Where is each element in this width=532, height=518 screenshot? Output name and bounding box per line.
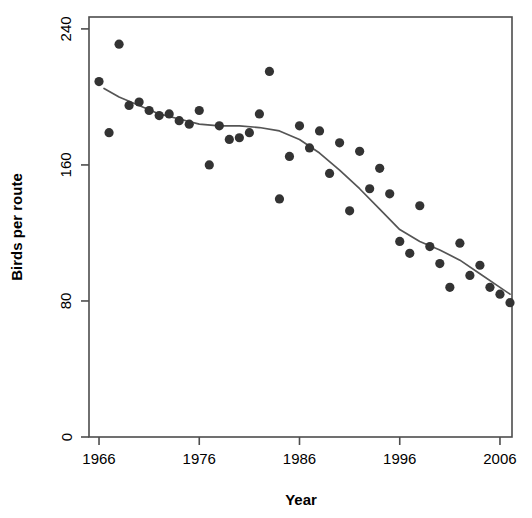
data-point: [435, 259, 444, 268]
x-axis-label: Year: [285, 491, 317, 508]
data-point: [235, 133, 244, 142]
x-tick-label: 1966: [82, 450, 115, 467]
data-point: [395, 237, 404, 246]
x-tick-label: 1976: [183, 450, 216, 467]
x-tick-label: 1986: [283, 450, 316, 467]
data-point: [205, 160, 214, 169]
y-tick-label: 240: [58, 16, 75, 41]
data-point: [265, 67, 274, 76]
data-point: [305, 143, 314, 152]
x-tick-label: 1996: [383, 450, 416, 467]
data-point: [345, 206, 354, 215]
data-point: [425, 242, 434, 251]
data-point: [385, 189, 394, 198]
data-point: [465, 271, 474, 280]
data-point: [315, 126, 324, 135]
data-point: [475, 261, 484, 270]
data-point: [365, 184, 374, 193]
data-point: [335, 138, 344, 147]
data-point: [185, 120, 194, 129]
data-point: [295, 121, 304, 130]
plot-background: [0, 0, 532, 518]
y-tick-label: 160: [58, 152, 75, 177]
x-tick-label: 2006: [483, 450, 516, 467]
y-axis-label: Birds per route: [8, 173, 25, 281]
data-point: [355, 147, 364, 156]
data-point: [455, 239, 464, 248]
data-point: [124, 101, 133, 110]
data-point: [155, 111, 164, 120]
data-point: [275, 194, 284, 203]
data-point: [255, 109, 264, 118]
data-point: [195, 106, 204, 115]
data-point: [175, 116, 184, 125]
y-tick-label: 0: [58, 433, 75, 441]
data-point: [325, 169, 334, 178]
data-point: [445, 283, 454, 292]
data-point: [165, 109, 174, 118]
data-point: [145, 106, 154, 115]
data-point: [405, 249, 414, 258]
data-point: [505, 298, 514, 307]
data-point: [135, 97, 144, 106]
data-point: [94, 77, 103, 86]
data-point: [114, 40, 123, 49]
data-point: [104, 128, 113, 137]
data-point: [375, 164, 384, 173]
data-point: [415, 201, 424, 210]
data-point: [215, 121, 224, 130]
data-point: [245, 128, 254, 137]
scatter-plot: 080160240 19661976198619962006 Year Bird…: [0, 0, 532, 518]
data-point: [285, 152, 294, 161]
chart-root: 080160240 19661976198619962006 Year Bird…: [0, 0, 532, 518]
data-point: [495, 290, 504, 299]
data-point: [225, 135, 234, 144]
y-tick-label: 80: [58, 293, 75, 310]
data-point: [485, 283, 494, 292]
